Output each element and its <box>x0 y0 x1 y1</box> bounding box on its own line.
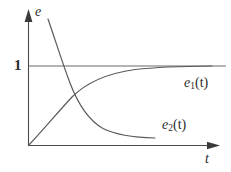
curve-label-e1-argument: (t) <box>195 75 208 90</box>
x-axis-label: t <box>205 152 209 166</box>
curve-label-e2: e2(t) <box>162 118 186 134</box>
x-axis-arrowhead <box>207 142 220 149</box>
curve-label-e1: e1(t) <box>184 76 208 92</box>
figure-canvas: e t 1 e1(t) e2(t) <box>0 0 231 172</box>
curve-label-e2-argument: (t) <box>173 117 186 132</box>
y-axis-label: e <box>35 5 41 19</box>
y-axis-tick-label-one: 1 <box>14 58 22 73</box>
y-axis-arrowhead <box>25 9 33 22</box>
